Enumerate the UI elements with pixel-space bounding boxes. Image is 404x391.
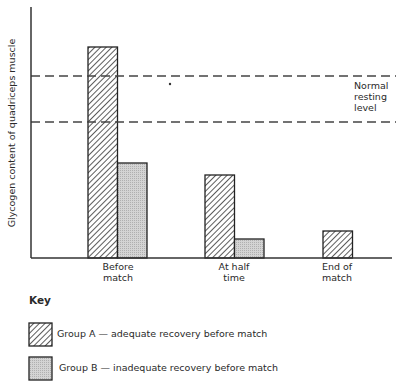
svg-text:level: level [354,102,377,113]
legend-label-group-b: Group B — inadequate recovery before mat… [59,362,278,373]
legend-swatch-group-a [29,323,52,346]
x-tick-label: Before [102,261,133,272]
x-tick-label: At half [219,261,251,272]
bar-group-b-0 [118,163,148,258]
key-title: Key [29,294,51,306]
normal-resting-level-label: Normalrestinglevel [354,80,388,113]
bar-group-a-0 [88,47,118,258]
normal-resting-level-band [31,76,396,122]
y-axis-label: Glycogen content of quadriceps muscle [6,39,17,228]
x-tick-label: End of [322,261,353,272]
svg-text:Normal: Normal [354,80,388,91]
bar-group-a-2 [323,231,353,258]
bar-group-a-1 [205,175,235,258]
x-tick-label: match [103,272,133,283]
legend-label-group-a: Group A — adequate recovery before match [57,328,267,339]
bar-group-b-1 [235,239,265,258]
x-tick-label: time [223,272,245,283]
x-tick-label: match [322,272,352,283]
svg-text:resting: resting [354,91,387,102]
legend-swatch-group-b [29,357,52,380]
x-axis-labels: BeforematchAt halftimeEnd ofmatch [102,261,352,283]
bars [88,47,353,258]
speck [169,83,171,85]
